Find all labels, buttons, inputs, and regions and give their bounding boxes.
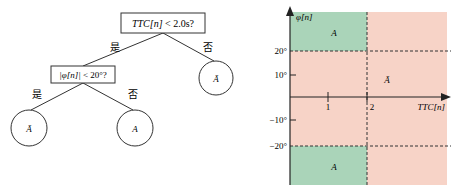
y-tick-label-20: 20° [274,46,287,56]
x-tick-label-2: 2 [370,102,375,112]
x-tick-label-1: 1 [326,102,331,112]
inner-question: |φ[n]| < 20°? [59,70,107,80]
edge-root-yes [83,33,163,66]
y-tick-label-minus10: −10° [269,115,287,125]
x-axis-label: TTC[n] [417,102,445,112]
root-question: TTC[n] < 2.0s? [132,18,195,29]
figure: TTC[n] < 2.0s? 是 否 |φ[n]| < 20°? 是 否 Ā Ā… [0,0,456,195]
decision-tree: TTC[n] < 2.0s? 是 否 |φ[n]| < 20°? 是 否 Ā Ā… [11,13,233,146]
leaf-inner-yes-label: Ā [25,124,32,134]
leaf-inner-no-label: A [131,124,138,134]
region-label-right: Ā [383,75,390,85]
region-green-bottom [290,146,367,185]
y-tick-label-10: 10° [274,70,287,80]
edge-inner-no [83,83,133,110]
region-chart: φ[n] TTC[n] 20° 10° −10° −20° 1 2 A A Ā [269,6,451,185]
inner-no-label: 否 [128,89,138,100]
root-no-label: 否 [203,42,213,53]
y-axis-arrow-icon [286,6,294,16]
region-label-top-left: A [330,28,337,38]
leaf-root-no-label: Ā [212,74,219,84]
region-label-bottom-left: A [330,162,337,172]
y-tick-label-minus20: −20° [269,141,287,151]
y-axis-label: φ[n] [296,12,313,22]
inner-yes-label: 是 [32,89,42,100]
root-yes-label: 是 [110,42,120,53]
